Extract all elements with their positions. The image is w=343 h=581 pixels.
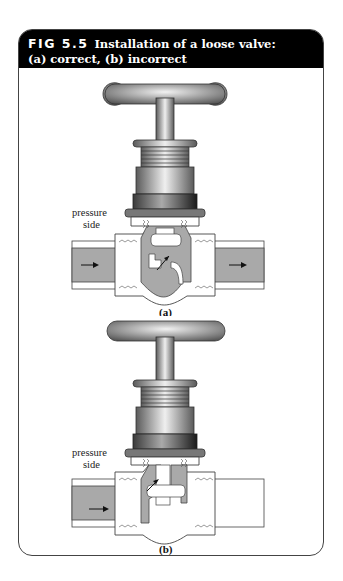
pressure-label: pressure <box>72 207 107 218</box>
figure-number: FIG 5.5 <box>28 36 88 51</box>
caption-b: (b) <box>159 543 173 556</box>
pressure-label: pressure <box>72 447 107 458</box>
valve-disc <box>151 234 181 246</box>
figure-title: Installation of a loose valve: <box>94 37 275 51</box>
side-label: side <box>83 219 100 230</box>
bonnet <box>136 167 194 194</box>
packing-nut <box>133 194 197 209</box>
side-label: side <box>83 459 100 470</box>
thread-icon <box>141 387 189 407</box>
thread-icon <box>141 147 189 167</box>
panel-a-illustration: pressure side (a) <box>19 76 324 316</box>
valve-disc <box>147 485 185 497</box>
stem <box>156 98 174 141</box>
panel-b-illustration: pressure side (b) <box>19 313 324 556</box>
figure-header: FIG 5.5Installation of a loose valve: (a… <box>19 30 323 68</box>
figure-box: FIG 5.5Installation of a loose valve: (a… <box>18 29 324 556</box>
figure-title-line-1: FIG 5.5Installation of a loose valve: <box>28 35 323 52</box>
figure-title-line-2: (a) correct, (b) incorrect <box>28 52 323 67</box>
